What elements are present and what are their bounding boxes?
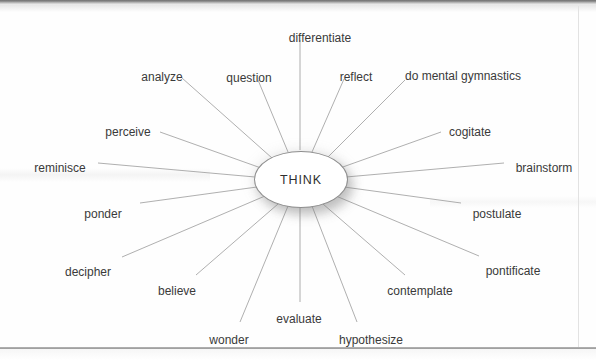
spoke-line bbox=[98, 163, 255, 177]
spoke-label: postulate bbox=[473, 208, 522, 220]
spoke-line bbox=[312, 79, 344, 152]
spoke-line bbox=[340, 132, 441, 168]
center-node-label: THINK bbox=[280, 173, 322, 187]
spoke-line bbox=[325, 80, 405, 160]
spoke-label: ponder bbox=[84, 208, 121, 220]
spoke-label: reflect bbox=[340, 71, 373, 83]
spoke-line bbox=[346, 163, 504, 177]
scan-right-rule bbox=[578, 6, 579, 348]
spoke-line bbox=[323, 204, 405, 275]
spoke-label: evaluate bbox=[276, 313, 321, 325]
spoke-label: brainstorm bbox=[516, 162, 573, 174]
scan-bottom-fade bbox=[0, 349, 596, 360]
spoke-label: believe bbox=[158, 285, 196, 297]
spoke-label: cogitate bbox=[449, 126, 491, 138]
spoke-line bbox=[196, 204, 278, 275]
spoke-label: wonder bbox=[209, 334, 248, 346]
diagram-page: THINK differentiatequestionreflectanalyz… bbox=[0, 0, 596, 360]
spoke-label: pontificate bbox=[486, 265, 541, 277]
spoke-label: contemplate bbox=[387, 285, 452, 297]
center-node-think: THINK bbox=[254, 151, 348, 208]
spoke-label: reminisce bbox=[34, 162, 85, 174]
spoke-label: analyze bbox=[141, 71, 182, 83]
spoke-line bbox=[140, 187, 257, 203]
spoke-label: decipher bbox=[65, 266, 111, 278]
spoke-label: hypothesize bbox=[339, 334, 403, 346]
spoke-line bbox=[182, 78, 272, 158]
spoke-label: differentiate bbox=[289, 32, 352, 44]
spoke-line bbox=[336, 196, 479, 256]
spoke-label: question bbox=[226, 72, 271, 84]
spoke-line bbox=[122, 196, 265, 257]
spoke-line bbox=[312, 206, 357, 322]
spoke-label: perceive bbox=[105, 126, 150, 138]
spoke-label: do mental gymnastics bbox=[405, 70, 521, 82]
spoke-line bbox=[240, 206, 288, 322]
spoke-line bbox=[160, 132, 261, 168]
spoke-line bbox=[344, 187, 461, 203]
spoke-line bbox=[258, 80, 288, 152]
